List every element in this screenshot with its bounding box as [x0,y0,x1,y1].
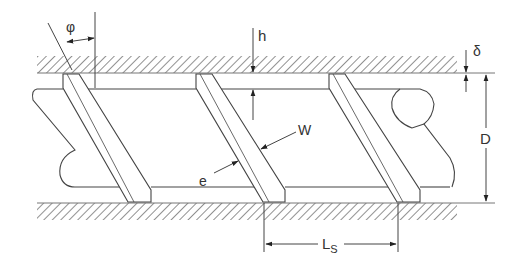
e-dimension [214,161,238,173]
Ls-label-sub: S [330,243,337,255]
e-label: e [199,174,207,188]
Ls-label: LS [322,236,338,251]
W-label: W [298,123,311,137]
D-label: D [480,131,491,146]
flight-3 [329,74,420,202]
screw-extruder-diagram: φ h δ D W e LS [0,0,515,268]
barrel-bottom-wall [37,203,495,220]
W-dimension [261,132,296,149]
phi-label: φ [66,20,75,34]
barrel-top-wall [37,56,495,73]
h-label: h [258,28,266,43]
delta-label: δ [473,44,481,58]
flight-2 [196,74,285,202]
flight-1 [63,74,151,202]
